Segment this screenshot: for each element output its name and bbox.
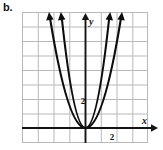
graph-canvas: y x 2 2: [0, 0, 163, 150]
y-axis-label: y: [88, 16, 94, 27]
y-axis-tick-label: 2: [81, 96, 86, 106]
parabola-figure: b.: [0, 0, 163, 150]
x-axis-tick-label: 2: [110, 132, 115, 142]
x-axis-label: x: [141, 115, 147, 126]
